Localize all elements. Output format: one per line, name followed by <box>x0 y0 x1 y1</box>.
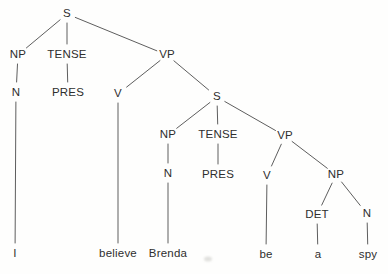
tree-node-s1: S <box>63 8 71 20</box>
tree-node-vp2: VP <box>277 130 293 142</box>
edge-tense1-pres1 <box>67 64 68 82</box>
edge-vp2-np3 <box>292 142 327 169</box>
edge-s2-tense2 <box>217 106 218 124</box>
tree-node-n1: N <box>12 87 21 99</box>
tree-node-n3: N <box>363 208 372 220</box>
edge-vp1-v1 <box>127 61 160 88</box>
edge-n3-w_spy <box>367 223 368 244</box>
tree-leaf-w_believe: believe <box>99 248 137 260</box>
edge-vp1-s2 <box>174 61 209 90</box>
edge-n1-w_i <box>15 102 16 243</box>
tree-node-tense2: TENSE <box>198 129 237 141</box>
tree-node-s2: S <box>213 91 221 103</box>
tree-node-np1: NP <box>10 49 26 61</box>
tree-node-np2: NP <box>160 129 176 141</box>
edge-v2-w_be <box>266 185 267 244</box>
tree-leaf-w_spy: spy <box>359 249 378 261</box>
edge-s2-np2 <box>177 103 210 129</box>
edge-s2-vp2 <box>225 102 276 131</box>
tree-node-det1: DET <box>305 209 329 221</box>
edge-det1-w_a <box>317 224 318 244</box>
tree-node-pres2: PRES <box>202 169 234 181</box>
edge-np3-det1 <box>322 183 332 205</box>
edge-vp2-v2 <box>272 144 282 166</box>
edge-s1-vp1 <box>75 17 157 50</box>
tree-node-vp1: VP <box>159 49 175 61</box>
tree-leaf-w_i: I <box>13 248 16 260</box>
edge-s1-np1 <box>26 20 60 48</box>
tree-node-np3: NP <box>328 169 344 181</box>
scan-artifact-dot <box>204 257 212 262</box>
tree-leaf-w_be: be <box>259 249 272 261</box>
tree-leaf-w_brenda: Brenda <box>149 248 187 260</box>
edge-np1-n1 <box>17 64 18 82</box>
tree-leaf-w_a: a <box>315 249 322 261</box>
tree-node-n2: N <box>164 168 173 180</box>
tree-node-tense1: TENSE <box>47 49 86 61</box>
edge-np3-n3 <box>342 182 361 205</box>
tree-edge-lines <box>0 0 388 274</box>
tree-node-v2: V <box>263 170 271 182</box>
tree-node-v1: V <box>114 88 122 100</box>
syntax-tree-figure: SNPTENSEVPNPRESVSNPTENSEVPNPRESVNPDETNIb… <box>0 0 388 274</box>
tree-node-pres1: PRES <box>52 87 84 99</box>
